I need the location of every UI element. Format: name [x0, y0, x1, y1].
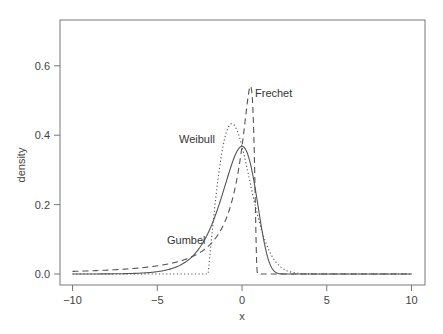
frechet-curve: [73, 86, 412, 274]
x-tick-label: 10: [405, 294, 417, 306]
density-chart: 0.00.20.40.6 −10−50510 Weibull Frechet G…: [0, 0, 443, 334]
frechet-label: Frechet: [255, 87, 292, 99]
x-tick-label: −10: [63, 294, 82, 306]
y-tick-label: 0.2: [35, 199, 50, 211]
x-axis-title: x: [239, 310, 245, 322]
x-tick-label: 0: [239, 294, 245, 306]
y-axis-title: density: [15, 147, 27, 182]
y-tick-label: 0.0: [35, 268, 50, 280]
gumbel-label: Gumbel: [167, 234, 206, 246]
x-tick-label: 5: [324, 294, 330, 306]
y-axis: 0.00.20.40.6: [35, 60, 60, 280]
weibull-label: Weibull: [179, 133, 215, 145]
y-tick-label: 0.6: [35, 60, 50, 72]
x-tick-label: −5: [151, 294, 164, 306]
x-axis: −10−50510: [63, 285, 417, 306]
y-tick-label: 0.4: [35, 129, 50, 141]
plot-frame: [60, 20, 425, 285]
figure-caption-cropped: ​: [0, 328, 443, 334]
gumbel-curve: [73, 146, 412, 274]
curves: [73, 86, 412, 274]
